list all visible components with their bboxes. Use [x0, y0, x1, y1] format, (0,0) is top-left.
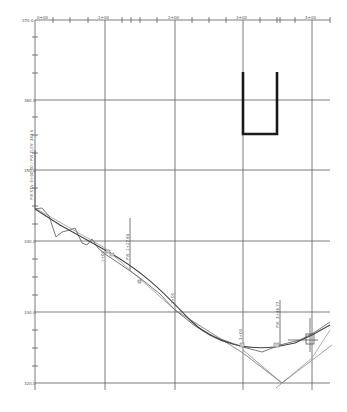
- station-label: 1+00: [98, 15, 109, 20]
- profile-drawing: 0+00 1+00 2+00 3+00 4+00 370.0 360.0 350…: [0, 0, 347, 412]
- station-labels: 0+00 1+00 2+00 3+00 4+00: [37, 15, 316, 20]
- vertical-gridlines: [35, 20, 312, 390]
- elevation-label: 340.0: [24, 239, 36, 244]
- station-label: 3+00: [236, 15, 247, 20]
- profile-view-canvas: 0+00 1+00 2+00 3+00 4+00 370.0 360.0 350…: [0, 0, 347, 412]
- station-marker-1: 1+00: [100, 251, 105, 262]
- horizontal-gridlines: [35, 20, 330, 383]
- elevation-label: 330.0: [24, 310, 36, 315]
- reference-grade-line: [35, 208, 330, 383]
- grade-break-line-2: [282, 345, 332, 383]
- station-label: 0+00: [37, 15, 48, 20]
- pvi-2-annotation: PVI: 3+46.77: [275, 301, 280, 328]
- station-label: 4+00: [305, 15, 316, 20]
- elevation-label: 360.0: [24, 98, 36, 103]
- existing-ground-line: [35, 208, 330, 352]
- proposed-profile-line: [35, 209, 330, 348]
- station-label: 2+00: [168, 15, 179, 20]
- grade-break-line-1: [243, 350, 282, 383]
- elevation-label: 320.0: [24, 381, 36, 386]
- u-structure: [243, 72, 277, 134]
- profile-label-boxes: [106, 250, 279, 347]
- station-marker-2: 2+00: [170, 293, 175, 304]
- begin-annotation: PVI STA: 0+00.00 / PVI ELEV: 344.5: [29, 129, 34, 200]
- pvi-1-annotation: PVI: 1+27.65: [125, 233, 130, 260]
- elevation-label: 370.0: [22, 18, 34, 23]
- station-marker-3: 3+00: [238, 329, 243, 340]
